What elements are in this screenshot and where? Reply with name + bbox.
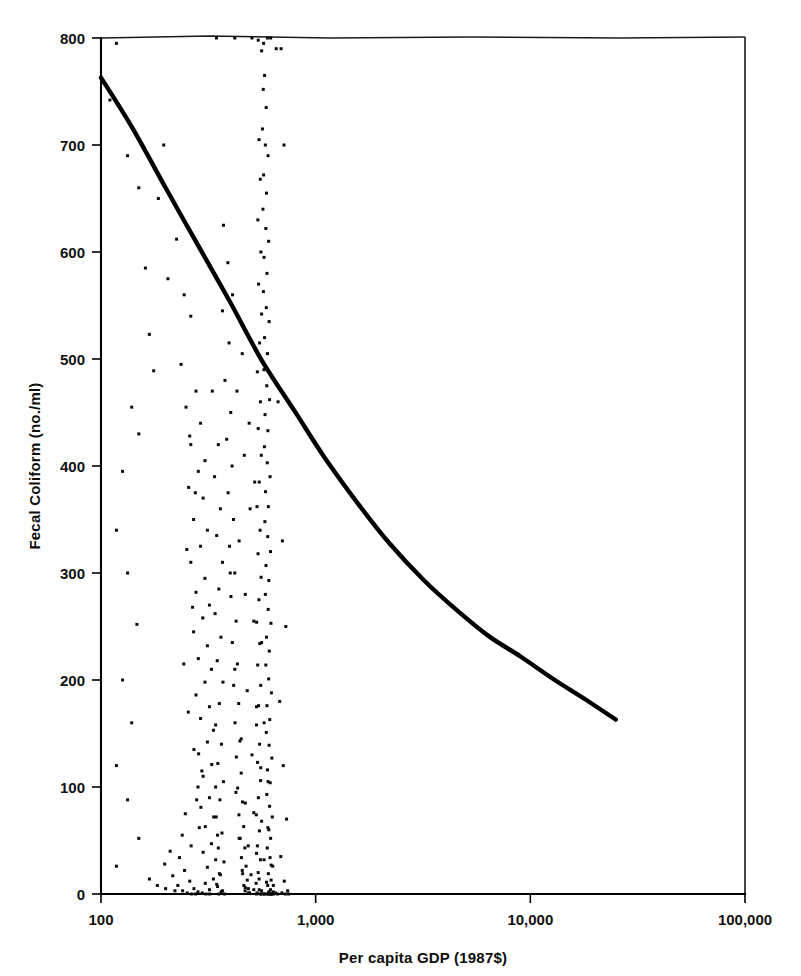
data-point	[199, 806, 202, 809]
data-point	[285, 818, 288, 821]
data-point	[208, 705, 211, 708]
data-point	[266, 429, 269, 432]
data-point	[255, 723, 258, 726]
data-point	[242, 884, 245, 887]
data-point	[234, 791, 237, 794]
data-point	[182, 662, 185, 665]
data-point	[235, 390, 238, 393]
data-point	[148, 333, 151, 336]
data-point	[178, 856, 181, 859]
data-point	[166, 277, 169, 280]
data-point	[144, 267, 147, 270]
data-point	[259, 529, 262, 532]
data-point	[183, 293, 186, 296]
y-tick-label: 100	[60, 779, 85, 796]
data-point	[214, 612, 217, 615]
data-point	[263, 74, 266, 77]
data-point	[206, 866, 209, 869]
data-point	[259, 684, 262, 687]
data-point	[269, 888, 272, 891]
data-point	[231, 641, 234, 644]
data-point	[175, 238, 178, 241]
axes	[101, 38, 745, 894]
data-point	[115, 865, 118, 868]
data-point	[217, 588, 220, 591]
data-point	[152, 369, 155, 372]
data-point	[206, 644, 209, 647]
data-point	[171, 874, 174, 877]
data-point	[227, 491, 230, 494]
data-point	[173, 889, 176, 892]
data-point	[263, 445, 266, 448]
data-point	[185, 406, 188, 409]
data-point	[190, 844, 193, 847]
data-point	[202, 851, 205, 854]
data-point	[265, 704, 268, 707]
data-point	[250, 37, 253, 40]
data-point	[260, 820, 263, 823]
data-point	[256, 891, 259, 894]
data-point	[156, 884, 159, 887]
data-point	[221, 681, 224, 684]
data-point	[262, 88, 265, 91]
data-point	[244, 593, 247, 596]
data-point	[176, 884, 179, 887]
data-point	[203, 577, 206, 580]
data-point	[199, 717, 202, 720]
data-point	[213, 475, 216, 478]
data-point	[194, 893, 197, 896]
x-tick-label: 100	[88, 911, 113, 928]
data-point	[214, 786, 217, 789]
data-point	[210, 842, 213, 845]
data-point	[188, 435, 191, 438]
data-point	[190, 893, 193, 896]
data-point	[268, 398, 271, 401]
y-tick-label: 800	[60, 30, 85, 47]
data-point	[194, 491, 197, 494]
data-point	[231, 465, 234, 468]
data-point	[192, 518, 195, 521]
data-point	[283, 880, 286, 883]
data-point	[268, 744, 271, 747]
data-point	[269, 475, 272, 478]
x-tick-label: 10,000	[507, 911, 553, 928]
data-point	[260, 576, 263, 579]
data-point	[257, 283, 260, 286]
data-point	[239, 837, 242, 840]
data-point	[259, 779, 262, 782]
data-point	[229, 411, 232, 414]
data-point	[121, 679, 124, 682]
data-point	[115, 529, 118, 532]
data-point	[271, 815, 274, 818]
data-point	[208, 888, 211, 891]
data-point	[276, 893, 279, 896]
data-point	[266, 352, 269, 355]
data-point	[244, 802, 247, 805]
data-point	[198, 826, 201, 829]
data-point	[244, 889, 247, 892]
data-point	[266, 846, 269, 849]
data-point	[250, 873, 253, 876]
data-point	[235, 620, 238, 623]
data-point	[191, 606, 194, 609]
data-point	[258, 743, 261, 746]
data-point	[148, 878, 151, 881]
data-point	[222, 224, 225, 227]
data-point	[229, 595, 232, 598]
data-point	[259, 893, 262, 896]
data-point	[220, 743, 223, 746]
data-point	[267, 608, 270, 611]
data-point	[197, 752, 200, 755]
scatter-chart: 0100200300400500600700800 1001,00010,000…	[0, 0, 801, 976]
data-point	[202, 497, 205, 500]
data-point	[275, 47, 278, 50]
data-point	[199, 545, 202, 548]
data-point	[219, 507, 222, 510]
data-point	[219, 873, 222, 876]
data-point	[212, 878, 215, 881]
data-point	[267, 677, 270, 680]
data-point	[108, 99, 111, 102]
data-point	[115, 764, 118, 767]
data-point	[130, 721, 133, 724]
data-point	[266, 884, 269, 887]
